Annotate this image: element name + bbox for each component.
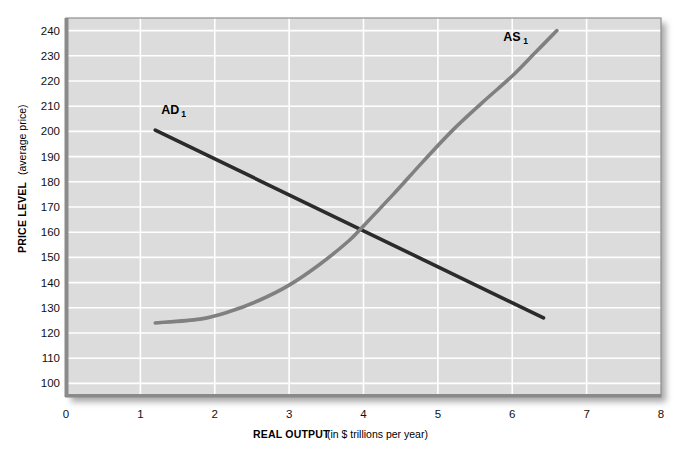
y-tick-label: 140 [41,277,60,289]
y-tick-label: 180 [41,176,60,188]
y-tick-label: 120 [41,327,60,339]
x-tick-label: 0 [63,408,69,420]
y-tick-label: 200 [41,125,60,137]
y-tick-label: 170 [41,201,60,213]
curve-label-subscript-as1: 1 [523,36,528,46]
curve-label-as1: AS [503,30,520,44]
chart-canvas: 1001101201301401501601701801902002102202… [0,0,687,455]
y-tick-label: 110 [42,352,60,364]
y-tick-label: 210 [41,100,60,112]
aggregate-supply-demand-chart: 1001101201301401501601701801902002102202… [0,0,687,455]
x-tick-label: 8 [658,408,664,420]
x-tick-label: 1 [137,408,143,420]
x-axis-title-bold: REAL OUTPUT [253,428,330,440]
curve-label-ad1: AD [161,103,179,117]
x-tick-label: 5 [435,408,441,420]
curve-label-subscript-ad1: 1 [181,109,186,119]
x-axis-title: REAL OUTPUT (in $ trillions per year) [253,428,428,440]
x-axis-title-regular: (in $ trillions per year) [327,428,428,440]
y-tick-label: 220 [41,75,60,87]
y-tick-label: 150 [41,251,60,263]
y-tick-label: 240 [41,25,60,37]
y-axis-tick-labels: 1001101201301401501601701801902002102202… [41,25,60,390]
y-tick-label: 160 [41,226,60,238]
y-tick-label: 190 [41,151,60,163]
y-tick-label: 230 [41,50,60,62]
y-axis-title-regular: (average price) [16,104,28,175]
x-tick-label: 2 [212,408,218,420]
y-axis-title-bold: PRICE LEVEL [16,182,28,253]
x-tick-label: 3 [286,408,292,420]
x-tick-label: 6 [509,408,515,420]
y-tick-label: 130 [41,302,60,314]
x-tick-label: 4 [360,408,367,420]
x-tick-label: 7 [583,408,589,420]
y-tick-label: 100 [41,377,60,389]
